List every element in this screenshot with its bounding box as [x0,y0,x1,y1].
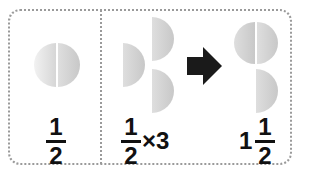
numerator: 1 [258,115,271,139]
half-circle-pair-panel1 [34,43,80,87]
result-pieces [234,22,278,113]
denominator: 2 [258,144,271,168]
denominator: 2 [124,144,137,168]
fraction-half: 1 2 [46,115,66,168]
numerator: 1 [49,115,62,139]
multiply-expression: ×3 [142,127,169,155]
times-operator: × [142,127,156,154]
fraction-half-2: 1 2 [121,115,141,168]
denominator: 2 [49,144,62,168]
right-arrow-icon [187,47,222,85]
three-half-pieces [123,17,174,113]
left-half-piece [34,43,56,87]
right-half-piece [58,43,80,87]
mixed-number-fraction: 1 2 [255,115,275,168]
numerator: 1 [124,115,137,139]
multiplier: 3 [156,127,169,154]
mixed-number-whole: 1 [239,127,252,155]
